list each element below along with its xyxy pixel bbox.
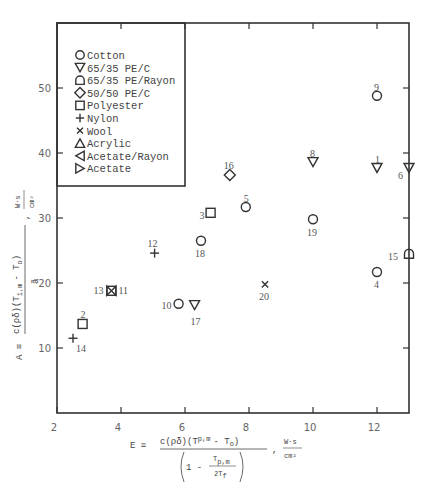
legend-label: Cotton: [87, 50, 125, 62]
data-point: 12: [148, 238, 160, 258]
point-label: 19: [307, 227, 317, 238]
point-label: 8: [310, 148, 315, 159]
x-tick-label: 4: [115, 422, 121, 433]
legend-bullet-icon: [76, 76, 84, 84]
legend-item: 65/35 PE/C: [75, 63, 150, 75]
marker-bowtie-icon: [107, 286, 116, 295]
legend-square-icon: [76, 101, 84, 109]
xlabel-denominator: 1 -: [186, 463, 202, 473]
legend-circle-icon: [76, 51, 84, 59]
legend-triangle-down-icon: [75, 63, 84, 71]
ylabel-units-bottom: cm²: [28, 195, 36, 208]
marker-plus-icon: [69, 334, 78, 343]
legend-plus-icon: [76, 114, 84, 122]
data-point: 16: [224, 160, 236, 181]
point-label: 14: [76, 343, 86, 354]
legend-item: Wool: [77, 126, 112, 138]
data-point: 11: [107, 285, 128, 296]
point-label: 5: [244, 193, 249, 204]
x-tick-label: 10: [304, 422, 317, 433]
data-point: 14: [69, 334, 87, 355]
legend-label: Acrylic: [87, 138, 131, 150]
xlabel-den-top: Tp,m: [213, 455, 230, 466]
legend-item: Polyester: [76, 100, 144, 112]
y-tick-label: 40: [38, 148, 51, 159]
xlabel-numerator: c(ρδ)(Tp,m- To): [160, 435, 239, 448]
data-point: 18: [195, 236, 206, 259]
legend-label: Acetate/Rayon: [87, 151, 169, 163]
y-axis-label: A ≡ c(ρδ)(Ti,m- To) ã , W·s cm²: [12, 190, 41, 360]
point-label: 12: [148, 238, 158, 249]
legend-item: Acetate/Rayon: [76, 151, 169, 163]
xlabel-prefix: E ≡: [130, 441, 146, 451]
point-label: 2: [81, 309, 86, 320]
legend-label: Wool: [87, 126, 112, 138]
ylabel-numerator: c(ρδ)(Ti,m- To): [12, 255, 24, 334]
marker-circle-icon: [174, 299, 183, 308]
data-point: 8: [308, 148, 318, 167]
ylabel-units-top: W·s: [14, 195, 22, 208]
ylabel-denominator: ã: [31, 278, 41, 284]
point-label: 10: [162, 300, 172, 311]
point-label: 18: [195, 248, 205, 259]
legend-label: Acetate: [87, 163, 131, 175]
legend: Cotton65/35 PE/C65/35 PE/Rayon50/50 PE/C…: [57, 23, 185, 186]
point-label: 11: [118, 285, 128, 296]
legend-item: Cotton: [76, 50, 125, 62]
data-point: 5: [241, 193, 250, 212]
legend-item: Acrylic: [75, 138, 131, 150]
point-label: 1: [375, 154, 380, 165]
legend-triangle-up-icon: [75, 139, 84, 147]
marker-plus-icon: [150, 249, 159, 258]
point-label: 13: [93, 285, 103, 296]
marker-circle-icon: [197, 236, 206, 245]
point-label: 3: [200, 210, 205, 221]
data-point: 4: [373, 267, 382, 290]
x-tick-label: 8: [243, 422, 249, 433]
y-tick-label: 30: [38, 213, 51, 224]
point-label: 15: [388, 251, 398, 262]
data-point: 20: [259, 281, 269, 302]
x-tick-label: 2: [51, 422, 57, 433]
legend-item: Nylon: [76, 113, 119, 125]
data-point: 3: [200, 208, 216, 221]
data-points: 123456891011121314151617181920: [69, 82, 415, 354]
data-point: 9: [373, 82, 382, 101]
marker-x-icon: [262, 281, 268, 287]
legend-x-icon: [77, 128, 83, 134]
point-label: 16: [224, 160, 234, 171]
legend-label: 65/35 PE/C: [87, 63, 150, 75]
legend-item: 50/50 PE/C: [75, 88, 150, 100]
data-point: 13: [93, 285, 103, 296]
xlabel-units-bottom: cm²: [284, 452, 297, 460]
point-label: 6: [398, 170, 403, 181]
marker-circle-icon: [373, 267, 382, 276]
marker-diamond-icon: [224, 170, 235, 181]
legend-triangle-right-icon: [76, 164, 84, 173]
data-point: 2: [78, 309, 87, 329]
marker-triangle-down-icon: [190, 301, 200, 310]
xlabel-den-bottom: 2Tf: [214, 470, 227, 480]
legend-item: 65/35 PE/Rayon: [76, 75, 175, 87]
point-label: 20: [259, 291, 269, 302]
point-label: 4: [374, 279, 379, 290]
y-tick-label: 50: [38, 83, 51, 94]
data-point: 1: [372, 154, 382, 173]
point-label: 9: [374, 82, 379, 93]
marker-circle-icon: [309, 215, 318, 224]
marker-square-icon: [206, 208, 215, 217]
data-point: 19: [307, 215, 318, 239]
legend-triangle-left-icon: [76, 151, 84, 160]
legend-label: Nylon: [87, 113, 119, 125]
legend-diamond-icon: [75, 88, 85, 98]
y-tick-label: 10: [38, 343, 51, 354]
svg-text:,: ,: [21, 215, 31, 220]
data-point: 17: [190, 301, 201, 328]
x-axis-label: E ≡ c(ρδ)(Tp,m- To) 1 - Tp,m 2Tf , W·s c…: [130, 435, 302, 482]
data-point: 10: [162, 299, 184, 311]
marker-square-icon: [78, 319, 87, 328]
legend-label: 50/50 PE/C: [87, 88, 150, 100]
x-tick-label: 6: [179, 422, 185, 433]
svg-text:,: ,: [272, 445, 277, 455]
ylabel-prefix: A ≡: [15, 344, 25, 360]
